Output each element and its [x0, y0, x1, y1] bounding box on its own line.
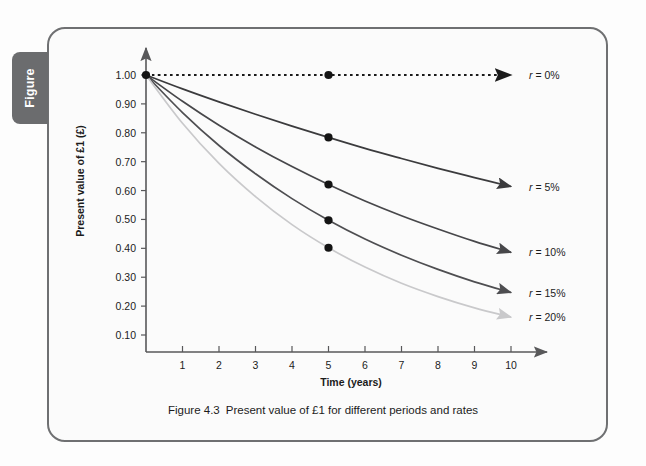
legend-label-r-20: r = 20%	[529, 311, 565, 323]
curve-r-5	[146, 75, 511, 187]
figure-tab-label: Figure	[23, 68, 37, 107]
y-axis-tick-label: 0.70	[116, 156, 137, 168]
y-axis-tick-label: 0.80	[116, 127, 137, 139]
figure-caption: Figure 4.3Present value of £1 for differ…	[0, 404, 646, 416]
caption-number: Figure 4.3	[168, 404, 220, 416]
x-axis-tick-label: 10	[505, 359, 517, 371]
x-axis-title: Time (years)	[146, 376, 556, 388]
x-axis-tick-label: 8	[435, 359, 441, 371]
x-axis-tick-label: 9	[472, 359, 478, 371]
legend-annotation-r-10: r = 10%	[529, 246, 565, 258]
data-point-marker	[324, 180, 332, 188]
page-canvas: Figure 1.000.900.800.700.600.500.400.300…	[0, 0, 646, 466]
y-axis-tick-label: 0.10	[116, 329, 137, 341]
x-axis-tick-label: 3	[253, 359, 259, 371]
figure-tab[interactable]: Figure	[12, 52, 48, 124]
y-axis-tick-label: 0.60	[116, 185, 137, 197]
curve-r-20	[146, 75, 511, 317]
x-axis-tick-label: 2	[216, 359, 222, 371]
y-axis-tick-label: 1.00	[116, 69, 137, 81]
legend-annotation-r-20: r = 20%	[529, 311, 565, 323]
x-axis-tick-label: 7	[399, 359, 405, 371]
data-point-marker	[324, 133, 332, 141]
y-axis-tick-label: 0.20	[116, 300, 137, 312]
x-axis-tick-label: 5	[326, 359, 332, 371]
y-axis-tick-label: 0.30	[116, 271, 137, 283]
legend-annotation-r-15: r = 15%	[529, 287, 565, 299]
data-point-marker	[324, 216, 332, 224]
legend-label-r-5: r = 5%	[529, 181, 560, 193]
x-axis-tick-label: 1	[180, 359, 186, 371]
curve-r-10	[146, 75, 511, 252]
x-axis-tick-label: 6	[362, 359, 368, 371]
legend-annotation-r-0: r = 0%	[529, 69, 560, 81]
x-axis-tick-label: 4	[289, 359, 295, 371]
y-axis-tick-label: 0.90	[116, 98, 137, 110]
y-axis-title: Present value of £1 (£)	[74, 96, 86, 266]
legend-annotation-r-5: r = 5%	[529, 181, 560, 193]
data-point-marker	[324, 244, 332, 252]
y-axis-tick-label: 0.40	[116, 242, 137, 254]
y-axis-tick-label: 0.50	[116, 213, 137, 225]
data-point-marker	[324, 71, 332, 79]
legend-label-r-10: r = 10%	[529, 246, 565, 258]
data-point-marker	[142, 71, 150, 79]
caption-text: Present value of £1 for different period…	[226, 404, 478, 416]
legend-label-r-0: r = 0%	[529, 69, 560, 81]
legend-label-r-15: r = 15%	[529, 287, 565, 299]
